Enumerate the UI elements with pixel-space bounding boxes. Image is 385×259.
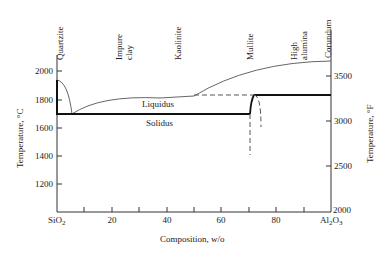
bottom-ticks xyxy=(84,207,304,212)
y-left-1800: 1800 xyxy=(35,95,54,105)
y-axis-left-title: Temperature, °C xyxy=(15,109,25,168)
x-label-al2o3: Al2O3 xyxy=(320,215,343,227)
x-label-60: 60 xyxy=(217,215,227,225)
right-ticks xyxy=(326,76,331,166)
y-left-1600: 1600 xyxy=(35,123,54,133)
mullite-boundary xyxy=(250,95,254,114)
label-mullite: Mullite xyxy=(245,33,255,60)
liquidus-label: Liquidus xyxy=(142,99,174,109)
liquidus-silica-curve xyxy=(57,80,72,114)
y-right-2500: 2500 xyxy=(334,161,353,171)
y-right-3000: 3000 xyxy=(334,116,353,126)
solidus-label: Solidus xyxy=(146,118,174,128)
y-right-2000: 2000 xyxy=(333,205,352,215)
y-left-2000: 2000 xyxy=(35,66,54,76)
label-quartzite: Quartzite xyxy=(55,27,65,60)
label-impure: Impure xyxy=(114,34,124,60)
y-axis-right-title: Temperature, °F xyxy=(365,105,375,163)
label-kaolinite: Kaolinite xyxy=(173,27,183,61)
label-alumina: alumina xyxy=(299,31,309,60)
liquidus-curve-upper xyxy=(194,61,331,96)
x-label-20: 20 xyxy=(108,215,118,225)
phase-diagram: Quartzite Impure clay Kaolinite Mullite … xyxy=(0,0,385,259)
x-axis-title: Composition, w/o xyxy=(160,234,225,244)
x-label-40: 40 xyxy=(163,215,173,225)
x-label-80: 80 xyxy=(272,215,282,225)
y-right-3500: 3500 xyxy=(334,71,353,81)
label-high: High xyxy=(289,42,299,61)
label-corundum: Corundum xyxy=(323,19,333,58)
liquidus-curve xyxy=(72,96,194,114)
x-label-sio2: SiO2 xyxy=(48,215,66,227)
mullite-dashed-right xyxy=(254,95,261,127)
y-left-1400: 1400 xyxy=(35,151,54,161)
label-clay: clay xyxy=(124,45,134,60)
y-left-1200: 1200 xyxy=(35,179,54,189)
